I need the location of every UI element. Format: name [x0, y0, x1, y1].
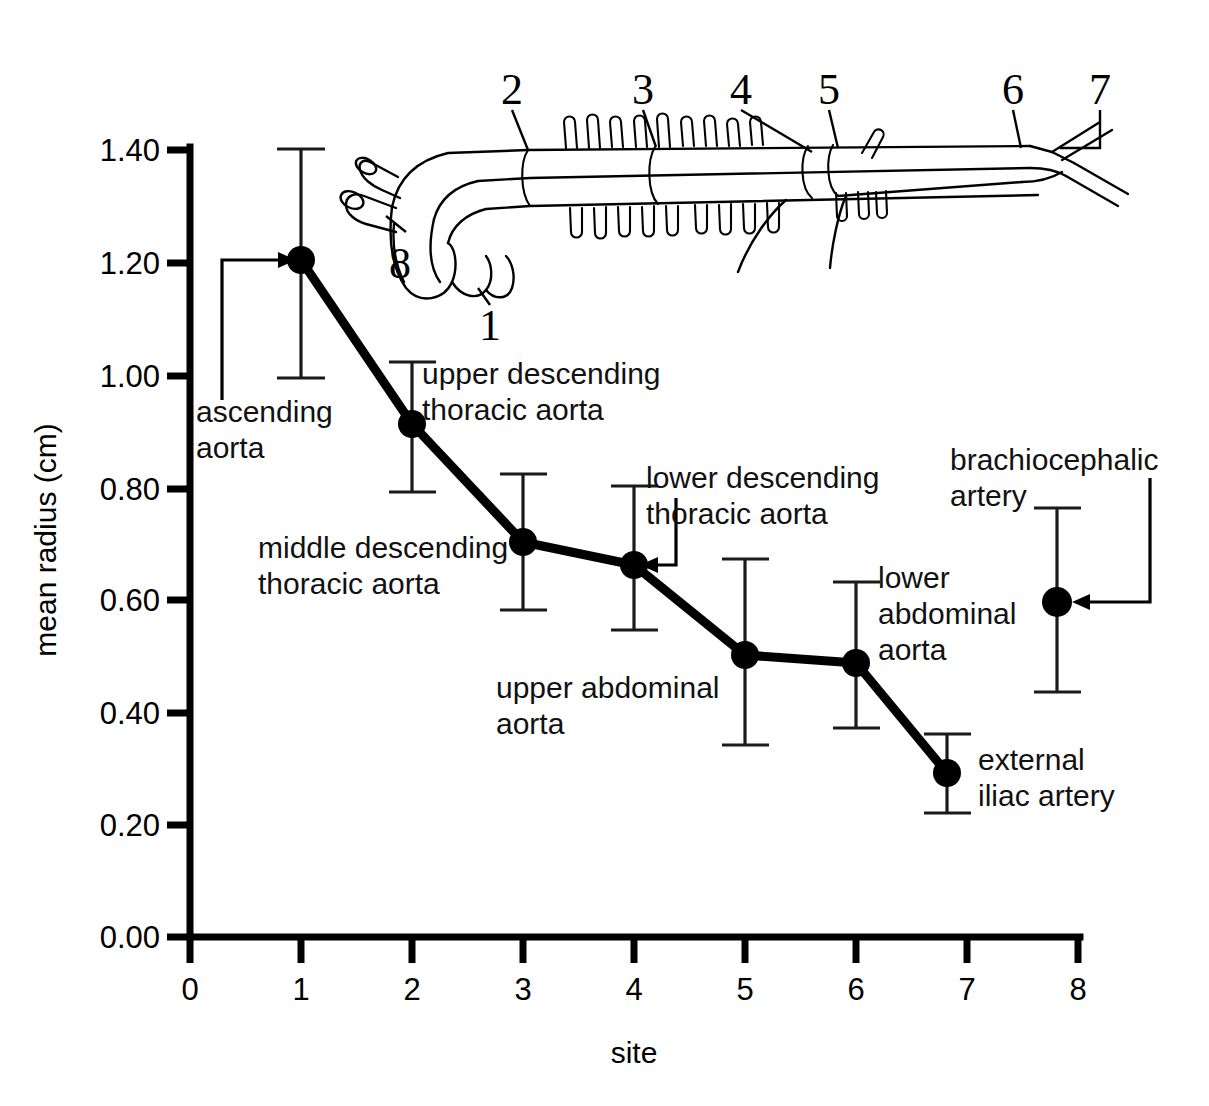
- aorta-diagram-inset: 2 3 4 5 6 7 8 1: [338, 65, 1128, 350]
- y-tick-label-060: 0.60: [100, 583, 160, 618]
- arrowhead-brachiocephalic: [1072, 594, 1090, 610]
- data-point-site-7[interactable]: [933, 759, 961, 787]
- diagram-number-1: 1: [479, 301, 501, 350]
- diagram-number-7: 7: [1089, 65, 1111, 114]
- diagram-number-4: 4: [730, 65, 752, 114]
- diagram-number-3: 3: [632, 65, 654, 114]
- y-tick-label-020: 0.20: [100, 808, 160, 843]
- diagram-number-2: 2: [501, 65, 523, 114]
- diagram-number-8: 8: [389, 239, 411, 288]
- leader-6: [1013, 110, 1021, 148]
- annotation-middle-descending-line1: middle descending: [258, 531, 508, 564]
- data-point-site-6[interactable]: [842, 649, 870, 677]
- y-tick-label-100: 1.00: [100, 359, 160, 394]
- annotation-ascending-aorta-line2: aorta: [196, 431, 265, 464]
- annotation-lower-descending-line2: thoracic aorta: [646, 497, 828, 530]
- x-axis-ticks: [190, 937, 1078, 963]
- x-tick-label-4: 4: [625, 972, 642, 1007]
- x-tick-label-0: 0: [181, 972, 198, 1007]
- x-tick-label-8: 8: [1069, 972, 1086, 1007]
- data-point-site-8[interactable]: [1042, 587, 1072, 617]
- diagram-number-6: 6: [1002, 65, 1024, 114]
- annotation-ascending-aorta-line1: ascending: [196, 395, 333, 428]
- data-point-site-5[interactable]: [731, 641, 759, 669]
- annotation-lower-abdominal-line1: lower: [878, 561, 950, 594]
- data-point-site-3[interactable]: [509, 528, 537, 556]
- x-tick-label-1: 1: [292, 972, 309, 1007]
- x-tick-label-2: 2: [403, 972, 420, 1007]
- annotation-brachiocephalic-line2: artery: [950, 479, 1027, 512]
- y-axis-title: mean radius (cm): [29, 423, 62, 656]
- annotation-brachiocephalic-line1: brachiocephalic: [950, 443, 1158, 476]
- annotation-lower-abdominal-line2: abdominal: [878, 597, 1016, 630]
- diagram-number-5: 5: [818, 65, 840, 114]
- x-axis-title: site: [611, 1036, 658, 1069]
- annotation-external-iliac-line1: external: [978, 743, 1085, 776]
- annotation-upper-abdominal-line2: aorta: [496, 707, 565, 740]
- y-tick-label-120: 1.20: [100, 246, 160, 281]
- annotation-lower-abdominal-line3: aorta: [878, 633, 947, 666]
- chart-figure: 2 3 4 5 6 7 8 1: [0, 0, 1209, 1106]
- x-tick-label-7: 7: [958, 972, 975, 1007]
- y-tick-label-040: 0.40: [100, 696, 160, 731]
- intercostal-arteries-upper: [564, 114, 763, 149]
- figure-canvas: 2 3 4 5 6 7 8 1: [0, 0, 1209, 1106]
- x-tick-label-5: 5: [736, 972, 753, 1007]
- y-tick-label-140: 1.40: [100, 133, 160, 168]
- annotation-upper-descending-line1: upper descending: [422, 357, 661, 390]
- intercostal-arteries-lower: [570, 203, 779, 239]
- y-tick-label-000: 0.00: [100, 920, 160, 955]
- annotation-lower-descending-line1: lower descending: [646, 461, 879, 494]
- leader-brachiocephalic: [1078, 478, 1150, 602]
- x-tick-label-3: 3: [514, 972, 531, 1007]
- annotation-labels: ascending aorta upper descending thoraci…: [196, 357, 1158, 812]
- annotation-upper-abdominal-line1: upper abdominal: [496, 671, 720, 704]
- leader-ascending-aorta: [222, 260, 282, 400]
- leader-5: [829, 110, 838, 148]
- x-tick-label-6: 6: [847, 972, 864, 1007]
- annotation-external-iliac-line2: iliac artery: [978, 779, 1115, 812]
- y-tick-label-080: 0.80: [100, 472, 160, 507]
- annotation-upper-descending-line2: thoracic aorta: [422, 393, 604, 426]
- abdominal-branches: [836, 129, 887, 221]
- annotation-middle-descending-line2: thoracic aorta: [258, 567, 440, 600]
- leader-2: [512, 110, 528, 150]
